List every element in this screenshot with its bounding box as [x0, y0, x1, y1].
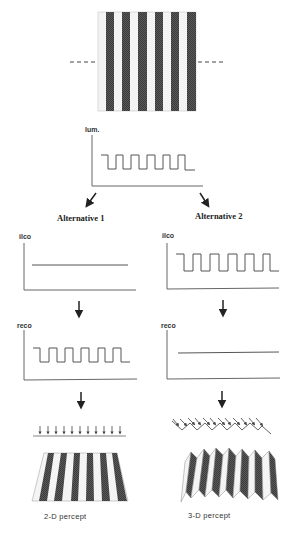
alt2-reco-plot [167, 330, 280, 379]
alternative-1-title: Alternative 1 [57, 213, 104, 223]
alt2-ilco-plot [167, 243, 279, 289]
alt1-reco-axis-label: reco [17, 322, 32, 329]
lightness-vs-shape-diagram [0, 0, 295, 536]
alt2-zigzag-illumination [172, 418, 271, 434]
3d-percept-folded-surface [181, 448, 278, 502]
2d-percept-caption: 2-D percept [44, 512, 87, 521]
branch-arrow-left [88, 193, 96, 204]
alt1-reco-plot [24, 330, 137, 380]
alt2-reco-axis-label: reco [161, 322, 176, 329]
branch-arrow-right [200, 193, 207, 204]
luminance-plot [92, 135, 203, 186]
alt1-ilco-plot [24, 243, 136, 290]
alternative-2-title: Alternative 2 [195, 211, 242, 221]
alt1-uniform-illumination-arrows [33, 426, 126, 436]
alt1-ilco-axis-label: ilco [19, 233, 31, 240]
3d-percept-caption: 3-D percept [188, 511, 231, 520]
2d-percept-plane [32, 453, 128, 501]
alt2-ilco-axis-label: ilco [162, 232, 174, 239]
lum-axis-label: lum. [85, 126, 99, 133]
stimulus-grating [98, 12, 196, 111]
